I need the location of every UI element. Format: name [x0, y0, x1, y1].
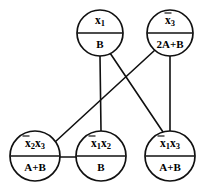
node-x2bar-x3[interactable]: x2x3 A+B: [10, 131, 60, 181]
node-x2bar-x3-bottom-label: A+B: [24, 161, 46, 173]
node-x1bar-x3[interactable]: x1x3 A+B: [145, 131, 195, 181]
node-x3bar-bottom-label: 2A+B: [156, 38, 184, 50]
edge-x3bar-to-x2bar-x3: [55, 50, 155, 142]
node-x1bar-x3-bottom-label: A+B: [159, 161, 181, 173]
edge-x1-to-x1bar-x3: [110, 53, 163, 132]
node-x1[interactable]: x1 B: [77, 10, 123, 56]
edge-x1-to-x1bar-x2: [100, 56, 101, 131]
node-x1bar-x2[interactable]: x1x2 B: [76, 131, 126, 181]
diagram-canvas: x1 B x3 2A+B x2x3 A+B x1x2 B x1: [0, 0, 209, 194]
node-x1bar-x2-bottom-label: B: [97, 161, 105, 173]
node-x3bar[interactable]: x3 2A+B: [147, 10, 193, 56]
node-x1-bottom-label: B: [96, 38, 104, 50]
